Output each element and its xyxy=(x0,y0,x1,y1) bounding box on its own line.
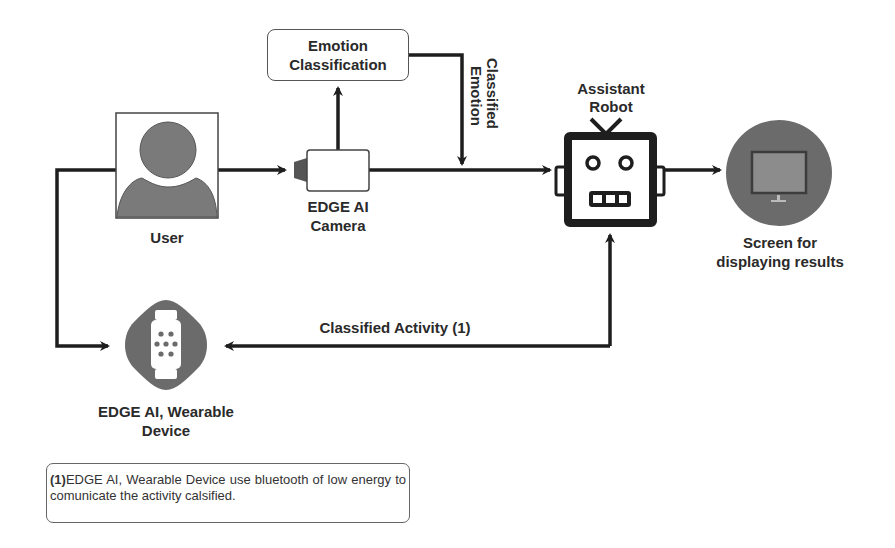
edge-user-to-wearable xyxy=(57,170,116,346)
footnote-text: EDGE AI, Wearable Device use bluetooth o… xyxy=(50,472,406,503)
robot-antenna-icon xyxy=(591,119,621,134)
emotion-classification-label-line1: Emotion xyxy=(308,36,368,55)
robot-label-line1: Assistant xyxy=(556,79,666,98)
robot-eye-right-icon xyxy=(620,157,632,169)
user-head-icon xyxy=(140,122,196,178)
wearable-icon xyxy=(125,300,207,390)
footnote-box: (1)EDGE AI, Wearable Device use bluetoot… xyxy=(46,463,410,523)
emotion-classification-node: Emotion Classification xyxy=(267,29,409,81)
robot-icon xyxy=(556,119,664,223)
wearable-label-line2: Device xyxy=(76,421,256,440)
edge-classified-emotion xyxy=(409,55,462,164)
wearable-label-line1: EDGE AI, Wearable xyxy=(76,402,256,421)
camera-label-line1: EDGE AI xyxy=(278,197,398,216)
camera-label-line2: Camera xyxy=(278,216,398,235)
screen-icon xyxy=(726,120,832,226)
camera-body xyxy=(307,150,369,191)
screen-label-line2: displaying results xyxy=(700,252,860,271)
camera-lens-icon xyxy=(294,158,307,182)
monitor-icon xyxy=(752,152,806,193)
robot-eye-left-icon xyxy=(587,157,599,169)
classified-activity-label: Classified Activity (1) xyxy=(300,318,490,337)
footnote-marker: (1) xyxy=(50,472,66,487)
screen-label-line1: Screen for xyxy=(700,233,860,252)
classified-emotion-label-line2: Emotion xyxy=(468,66,485,126)
emotion-classification-label-line2: Classification xyxy=(289,55,387,74)
classified-emotion-label-line1: Classified xyxy=(484,58,501,129)
user-label: User xyxy=(117,228,217,247)
robot-label-line2: Robot xyxy=(556,97,666,116)
camera-node xyxy=(294,150,369,191)
user-node xyxy=(116,113,218,218)
